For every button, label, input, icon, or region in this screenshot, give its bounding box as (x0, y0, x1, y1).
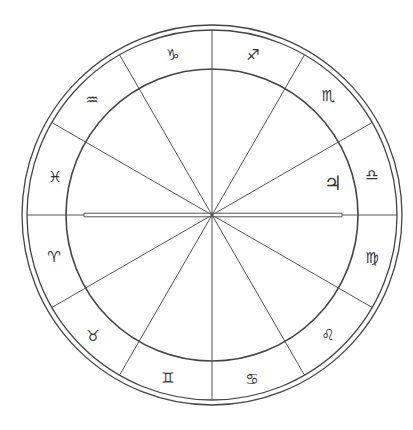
cusp-line-60 (212, 55, 305, 215)
house-cusp-lines (52, 30, 372, 400)
virgo-icon: ♍︎ (365, 249, 378, 267)
aries-icon: ♈︎ (47, 248, 60, 266)
capricorn-icon: ♑︎ (166, 46, 179, 64)
cusp-line-300 (212, 215, 305, 375)
cusp-line-210 (52, 215, 212, 308)
taurus-icon: ♉︎ (86, 327, 99, 345)
cusp-line-30 (212, 123, 372, 216)
aquarius-icon: ♒︎ (85, 91, 98, 109)
gemini-icon: ♊︎ (161, 369, 174, 387)
pisces-icon: ♓︎ (48, 168, 61, 186)
zodiac-wheel: ♈︎♉︎♊︎♋︎♌︎♍︎♎︎♏︎♐︎♑︎♒︎♓︎ ♃︎ (0, 0, 413, 430)
cusp-line-120 (120, 55, 213, 215)
libra-icon: ♎︎ (365, 166, 378, 184)
leo-icon: ♌︎ (321, 326, 334, 344)
scorpio-icon: ♏︎ (321, 87, 335, 105)
cusp-line-150 (52, 123, 212, 216)
sagittarius-icon: ♐︎ (246, 46, 259, 64)
planets: ♃︎ (324, 171, 342, 195)
cusp-line-330 (212, 215, 372, 308)
cancer-icon: ♋︎ (245, 370, 258, 388)
jupiter-icon: ♃︎ (324, 171, 342, 195)
cusp-line-240 (120, 215, 213, 375)
